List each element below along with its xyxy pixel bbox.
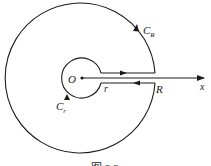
label-outer-radius: R [155, 83, 163, 95]
keyhole-contour-diagram: O r R x CR Cr 图 3.3 [0, 0, 211, 166]
label-origin: O [68, 73, 76, 85]
figure-caption: 图 3.3 [91, 162, 119, 166]
arrow-right-icon [120, 71, 127, 76]
arrow-left-icon [133, 81, 140, 86]
origin-dot [80, 76, 83, 79]
arrow-inner-ccw-icon [64, 94, 70, 100]
label-inner-radius: r [104, 83, 108, 94]
label-inner-contour: Cr [56, 100, 66, 115]
label-axis-x: x [199, 81, 205, 92]
label-outer-contour: CR [143, 24, 155, 39]
